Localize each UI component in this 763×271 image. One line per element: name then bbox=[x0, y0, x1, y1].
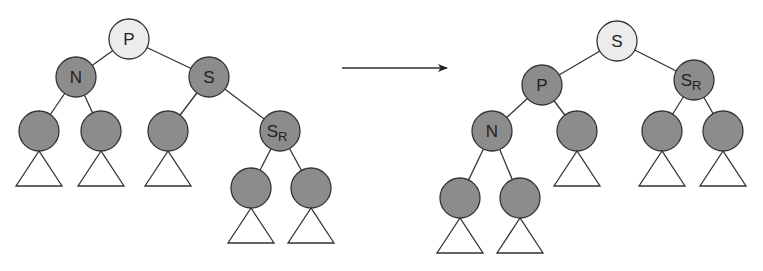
node-circle bbox=[500, 178, 540, 218]
tree-node-sr_r bbox=[703, 111, 743, 151]
node-label: N bbox=[70, 68, 82, 87]
subtree-triangle-icon bbox=[145, 151, 191, 186]
node-circle bbox=[81, 111, 121, 151]
tree-node-sr: SR bbox=[674, 60, 714, 100]
subtree-triangle-icon bbox=[700, 151, 746, 186]
node-label-subscript: R bbox=[278, 129, 287, 144]
tree-after-rotation: SPSRN bbox=[437, 21, 746, 253]
subtree-triangle-icon bbox=[639, 151, 685, 186]
node-label: S bbox=[611, 32, 622, 51]
tree-before-rotation: PNSSR bbox=[16, 19, 334, 243]
tree-node-s: S bbox=[597, 21, 637, 61]
subtree-triangle-icon bbox=[497, 218, 543, 253]
node-label: N bbox=[486, 122, 498, 141]
subtree-triangle-icon bbox=[228, 208, 274, 243]
subtree-triangle-icon bbox=[554, 151, 600, 186]
tree-node-n: N bbox=[56, 57, 96, 97]
subtree-triangle-icon bbox=[437, 218, 483, 253]
tree-node-n_r bbox=[500, 178, 540, 218]
node-label: S bbox=[203, 68, 214, 87]
tree-node-p: P bbox=[522, 65, 562, 105]
node-label-subscript: R bbox=[692, 78, 701, 93]
tree-node-n_r bbox=[81, 111, 121, 151]
tree-node-n: N bbox=[472, 111, 512, 151]
node-circle bbox=[440, 178, 480, 218]
subtree-triangle-icon bbox=[78, 151, 124, 186]
tree-node-s: S bbox=[189, 57, 229, 97]
node-label: P bbox=[536, 76, 547, 95]
tree-node-p: P bbox=[109, 19, 149, 59]
tree-node-n_l bbox=[19, 111, 59, 151]
tree-node-sr: SR bbox=[260, 111, 300, 151]
tree-node-sr_l bbox=[231, 168, 271, 208]
node-circle bbox=[19, 111, 59, 151]
subtree-triangle-icon bbox=[288, 208, 334, 243]
tree-node-sr_r bbox=[291, 168, 331, 208]
tree-node-sr_l bbox=[642, 111, 682, 151]
node-circle bbox=[231, 168, 271, 208]
node-label: P bbox=[123, 30, 134, 49]
tree-node-n_l bbox=[440, 178, 480, 218]
node-circle bbox=[642, 111, 682, 151]
tree-rotation-diagram: PNSSR SPSRN bbox=[0, 0, 763, 271]
tree-node-s_l bbox=[557, 111, 597, 151]
node-circle bbox=[703, 111, 743, 151]
node-circle bbox=[557, 111, 597, 151]
tree-node-s_l bbox=[148, 111, 188, 151]
node-circle bbox=[148, 111, 188, 151]
diagram-svg: PNSSR SPSRN bbox=[0, 0, 763, 271]
node-circle bbox=[291, 168, 331, 208]
subtree-triangle-icon bbox=[16, 151, 62, 186]
